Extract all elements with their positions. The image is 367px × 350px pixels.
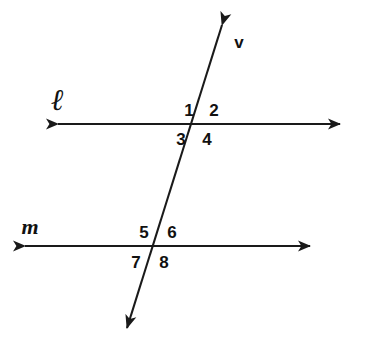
angle-label-5: 5 (139, 224, 148, 241)
angle-label-4: 4 (202, 131, 211, 148)
angle-label-7: 7 (131, 254, 140, 271)
geometry-diagram: ℓ m v 1 2 3 4 5 6 7 8 (0, 0, 367, 350)
angle-label-6: 6 (167, 224, 176, 241)
line-label-v: v (234, 34, 243, 51)
angle-label-1: 1 (184, 102, 193, 119)
transversal-line-v (127, 25, 222, 328)
line-label-l: ℓ (51, 85, 64, 115)
line-label-m: m (21, 216, 38, 238)
angle-label-2: 2 (209, 102, 218, 119)
angle-label-3: 3 (176, 131, 185, 148)
angle-label-8: 8 (159, 254, 168, 271)
diagram-canvas (0, 0, 367, 350)
